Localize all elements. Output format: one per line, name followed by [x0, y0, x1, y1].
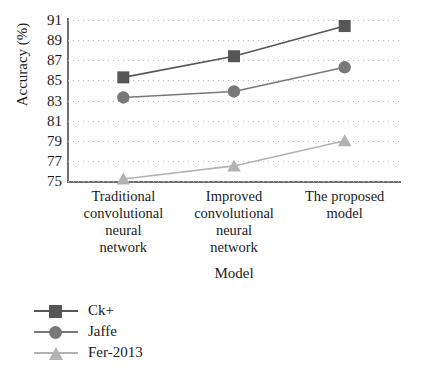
legend-key	[34, 302, 78, 320]
y-axis-tick-labels: 918987858381797775	[32, 20, 62, 181]
legend-label: Fer-2013	[78, 345, 143, 360]
x-axis-category-label-line: The proposed	[291, 188, 398, 205]
legend-item-fer-2013[interactable]: Fer-2013	[34, 342, 254, 363]
y-axis-tick-label: 85	[34, 73, 62, 88]
x-axis-category-label-line: Traditional	[70, 188, 177, 205]
legend-key	[34, 323, 78, 341]
x-axis-category-label: The proposedmodel	[289, 188, 400, 266]
data-point-marker	[228, 50, 240, 62]
caption-remnant-text	[60, 0, 310, 3]
y-axis-tick-label: 87	[34, 53, 62, 68]
x-axis-category-label-line: neural	[70, 222, 177, 239]
series-jaffe	[117, 61, 351, 104]
data-point-marker	[117, 71, 129, 83]
x-axis-category-label-line: convolutional	[70, 205, 177, 222]
y-axis-tick-label: 89	[34, 33, 62, 48]
data-point-marker	[338, 61, 350, 73]
legend-key	[34, 344, 78, 362]
y-axis-tick-label: 75	[34, 174, 62, 189]
x-axis-category-label-line: network	[70, 239, 177, 256]
y-axis-tick-label: 83	[34, 94, 62, 109]
data-point-marker	[228, 85, 240, 97]
gridline	[68, 181, 400, 182]
y-axis-tick-label: 79	[34, 134, 62, 149]
y-axis-tick-label: 91	[34, 13, 62, 28]
y-axis-tick-label: 81	[34, 114, 62, 129]
x-axis-category-label: Traditionalconvolutionalneuralnetwork	[68, 188, 179, 266]
data-point-marker	[117, 91, 129, 103]
accuracy-line-chart-figure: Accuracy (%) 918987858381797775 Traditio…	[0, 0, 434, 371]
data-point-marker	[338, 134, 352, 146]
series-layer	[68, 20, 400, 181]
x-axis-category-label-line: network	[181, 239, 288, 256]
legend-item-jaffe[interactable]: Jaffe	[34, 321, 254, 342]
x-axis-title: Model	[68, 265, 400, 282]
x-axis-category-label-line: model	[291, 205, 398, 222]
legend-label: Jaffe	[78, 324, 117, 339]
circle-marker-icon	[49, 326, 62, 339]
chart-legend: Ck+JaffeFer-2013	[34, 300, 254, 363]
triangle-marker-icon	[49, 347, 63, 360]
plot-area	[68, 20, 400, 181]
data-point-marker	[339, 20, 351, 32]
series-fer-2013	[117, 134, 352, 184]
x-axis-category-label: Improvedconvolutionalneuralnetwork	[179, 188, 290, 266]
x-axis-category-label-line: neural	[181, 222, 288, 239]
legend-item-ck-[interactable]: Ck+	[34, 300, 254, 321]
x-axis-category-label-line: Improved	[181, 188, 288, 205]
y-axis-title: Accuracy (%)	[14, 0, 31, 140]
x-axis-category-label-line: convolutional	[181, 205, 288, 222]
square-marker-icon	[49, 305, 62, 318]
y-axis-tick-label: 77	[34, 154, 62, 169]
legend-label: Ck+	[78, 303, 114, 318]
x-axis-category-labels: TraditionalconvolutionalneuralnetworkImp…	[68, 188, 400, 266]
